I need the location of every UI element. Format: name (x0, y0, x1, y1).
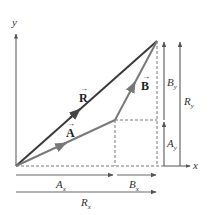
y-axis-label: y (11, 16, 17, 28)
component-ry: Ry (180, 42, 195, 166)
ry-sub: y (190, 102, 195, 110)
x-axis-label: x (192, 159, 198, 171)
svg-text:By: By (167, 76, 178, 91)
component-bx: Bx (117, 175, 156, 193)
ay-sub: y (173, 144, 178, 152)
vector-r: → R (16, 41, 157, 166)
y-axis: y (11, 16, 17, 166)
x-axis: x (16, 159, 198, 171)
rx-sub: x (87, 203, 92, 211)
svg-text:Ay: Ay (166, 137, 178, 152)
component-by: By (164, 42, 178, 120)
component-ax: Ax (16, 175, 113, 193)
svg-text:Bx: Bx (129, 178, 140, 193)
svg-text:Ax: Ax (55, 178, 67, 193)
component-rx: Rx (16, 192, 156, 211)
vector-b-label: B (141, 79, 149, 93)
component-ay: Ay (164, 122, 178, 166)
vector-b: → B (115, 41, 157, 120)
vector-r-label: R (79, 91, 88, 105)
by-sub: y (173, 83, 178, 91)
svg-text:Rx: Rx (80, 196, 92, 211)
vector-addition-diagram: y x → R → A → B By Ay (0, 0, 214, 215)
svg-text:Ry: Ry (183, 95, 195, 110)
vector-a: → A (16, 119, 115, 166)
vector-a-label: A (66, 126, 75, 140)
